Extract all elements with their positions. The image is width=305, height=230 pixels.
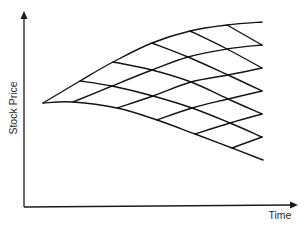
lattice-down-path	[227, 25, 262, 45]
lattice-edges	[43, 22, 263, 160]
x-axis-arrow-icon	[290, 202, 298, 209]
lattice-up-path	[43, 22, 262, 103]
lattice-up-path	[117, 68, 262, 108]
lattice-up-path	[232, 137, 262, 148]
lattice-down-path	[43, 102, 263, 160]
x-axis-label: Time	[269, 209, 292, 221]
lattice-up-path	[195, 114, 262, 134]
lattice-up-path	[157, 91, 262, 120]
y-axis	[21, 11, 28, 207]
stock-price-lattice-diagram: Stock Price Time	[0, 0, 305, 230]
y-axis-label: Stock Price	[7, 81, 19, 134]
x-axis	[24, 202, 298, 209]
y-axis-arrow-icon	[21, 11, 28, 19]
lattice-down-path	[152, 43, 262, 91]
